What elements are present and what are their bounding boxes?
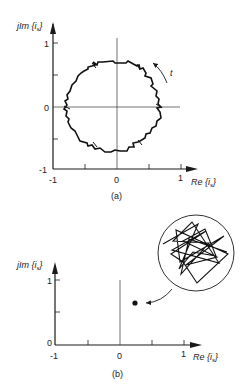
y-axis-arrow-icon xyxy=(52,262,58,274)
y-tick-label-a-0: 0 xyxy=(44,103,49,113)
y-axis-label-a: jIm {is} xyxy=(16,21,43,32)
figure-canvas: 1 0 -1 -1 0 1 jIm {is} Re {is} t (a) xyxy=(0,0,247,387)
panel-b: 1 0 -1 0 1 jIm {is} Re {is} (b) xyxy=(16,215,234,379)
caption-b: (b) xyxy=(112,369,123,379)
panel-a: 1 0 -1 -1 0 1 jIm {is} Re {is} t (a) xyxy=(16,21,216,201)
rotation-direction-arrow-icon xyxy=(153,63,167,83)
y-tick-label-b-0: 0 xyxy=(47,338,52,348)
y-axis-arrow-icon xyxy=(50,22,56,34)
x-tick-label-b-neg1: -1 xyxy=(50,351,58,361)
y-axis-label-b: jIm {is} xyxy=(16,260,43,271)
y-tick-label-a-neg1: -1 xyxy=(39,165,47,175)
current-locus-trajectory xyxy=(64,61,161,152)
x-tick-label-b-1: 1 xyxy=(181,349,186,359)
rotation-time-label: t xyxy=(170,68,173,78)
x-axis-arrow-icon xyxy=(186,166,198,172)
x-axis-label-a: Re {is} xyxy=(191,177,216,188)
current-vector-point xyxy=(132,300,137,305)
magnify-callout-arrow-icon xyxy=(146,289,172,303)
caption-a: (a) xyxy=(111,191,122,201)
x-tick-label-a-neg1: -1 xyxy=(49,175,57,185)
x-tick-label-b-0: 0 xyxy=(117,351,122,361)
y-tick-label-b-1: 1 xyxy=(47,276,52,286)
x-tick-label-a-0: 0 xyxy=(114,175,119,185)
x-tick-label-a-1: 1 xyxy=(178,173,183,183)
x-axis-label-b: Re {is} xyxy=(193,352,218,363)
y-tick-label-a-1: 1 xyxy=(44,39,49,49)
x-axis-arrow-icon xyxy=(190,342,202,348)
